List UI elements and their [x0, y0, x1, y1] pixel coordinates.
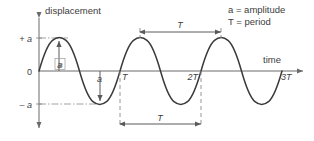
axes	[39, 18, 303, 128]
y-tick-label-zero: 0	[27, 67, 32, 77]
period-drop-lines	[120, 28, 221, 126]
boxed-a-label: a	[56, 59, 65, 69]
period-measures	[120, 32, 221, 124]
y-axis-title: displacement	[45, 5, 101, 16]
x-tick-label-3T: 3T	[281, 72, 293, 82]
x-tick-label-T: T	[122, 72, 129, 82]
x-tick-label-2T: 2T	[186, 72, 199, 82]
x-axis-title: time	[263, 54, 281, 65]
period-label-bottom: T	[157, 113, 164, 123]
y-tick-label-minus-a: – a	[18, 100, 32, 110]
legend-item-period: T = period	[228, 16, 271, 27]
amplitude-label-down: a	[97, 74, 102, 84]
y-tick-label-plus-a: + a	[19, 34, 32, 44]
legend-item-amplitude: a = amplitude	[228, 4, 285, 15]
diagram-canvas: displacement time + a 0 – a T 2T 3T a a …	[0, 0, 314, 141]
oscillation-diagram: displacement time + a 0 – a T 2T 3T a a …	[0, 0, 314, 141]
period-label-top: T	[177, 20, 184, 30]
